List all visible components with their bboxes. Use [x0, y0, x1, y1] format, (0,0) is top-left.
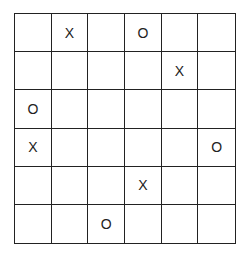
board-cell-r1-c2[interactable] [88, 52, 125, 90]
board-cell-r4-c0[interactable] [15, 167, 52, 205]
board-cell-r2-c2[interactable] [88, 90, 125, 128]
board-cell-r3-c4[interactable] [162, 129, 199, 167]
board-cell-r0-c5[interactable] [198, 14, 235, 52]
board-cell-r0-c4[interactable] [162, 14, 199, 52]
board-cell-r0-c3[interactable]: O [125, 14, 162, 52]
board-cell-r2-c3[interactable] [125, 90, 162, 128]
board-cell-r1-c5[interactable] [198, 52, 235, 90]
board-cell-r3-c1[interactable] [52, 129, 89, 167]
board-cell-r1-c1[interactable] [52, 52, 89, 90]
board-cell-r3-c3[interactable] [125, 129, 162, 167]
board-cell-r3-c0[interactable]: X [15, 129, 52, 167]
board-cell-r1-c0[interactable] [15, 52, 52, 90]
board-cell-r4-c2[interactable] [88, 167, 125, 205]
board-cell-r5-c3[interactable] [125, 205, 162, 243]
board-cell-r2-c0[interactable]: O [15, 90, 52, 128]
board-cell-r5-c0[interactable] [15, 205, 52, 243]
board-cell-r3-c2[interactable] [88, 129, 125, 167]
board-cell-r1-c4[interactable]: X [162, 52, 199, 90]
board-cell-r5-c4[interactable] [162, 205, 199, 243]
board-cell-r0-c1[interactable]: X [52, 14, 89, 52]
board-cell-r2-c4[interactable] [162, 90, 199, 128]
board-cell-r3-c5[interactable]: O [198, 129, 235, 167]
board-cell-r1-c3[interactable] [125, 52, 162, 90]
board-cell-r4-c5[interactable] [198, 167, 235, 205]
board-cell-r5-c1[interactable] [52, 205, 89, 243]
board-cell-r5-c2[interactable]: O [88, 205, 125, 243]
board-cell-r0-c2[interactable] [88, 14, 125, 52]
board-cell-r4-c1[interactable] [52, 167, 89, 205]
board-cell-r5-c5[interactable] [198, 205, 235, 243]
game-board: XOXOXOXO [14, 13, 236, 244]
board-cell-r2-c1[interactable] [52, 90, 89, 128]
board-cell-r4-c4[interactable] [162, 167, 199, 205]
board-cell-r2-c5[interactable] [198, 90, 235, 128]
board-cell-r0-c0[interactable] [15, 14, 52, 52]
board-cell-r4-c3[interactable]: X [125, 167, 162, 205]
